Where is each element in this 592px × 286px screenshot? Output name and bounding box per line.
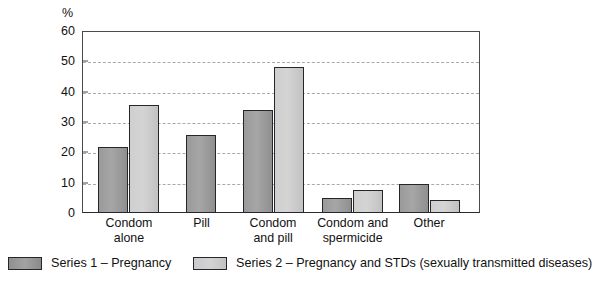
bar-series-1[interactable] (186, 135, 216, 213)
legend-swatch-series-2-icon (193, 257, 227, 270)
legend-item-series-2[interactable]: Series 2 – Pregnancy and STDs (sexually … (193, 256, 592, 270)
bar-series-1[interactable] (98, 147, 128, 213)
bar-group (171, 31, 232, 213)
legend-label-series-2: Series 2 – Pregnancy and STDs (sexually … (236, 256, 592, 270)
bar-series-2[interactable] (430, 200, 460, 213)
y-tick-label-60: 60 (8, 24, 82, 38)
legend-swatch-series-1-icon (8, 257, 42, 270)
x-axis-label-5: Other (369, 216, 489, 231)
y-tick-label-40: 40 (8, 85, 82, 99)
chart-legend: Series 1 – Pregnancy Series 2 – Pregnanc… (0, 256, 545, 286)
y-tick-label-30: 30 (8, 115, 82, 129)
bar-series-1[interactable] (322, 198, 352, 213)
y-tick-label-20: 20 (8, 145, 82, 159)
bar-group (98, 31, 159, 213)
bar-series-1[interactable] (399, 184, 429, 213)
bar-series-2[interactable] (274, 67, 304, 214)
bar-series-1[interactable] (243, 110, 273, 213)
bar-series-2[interactable] (129, 105, 159, 213)
bar-group (243, 31, 304, 213)
y-tick-label-10: 10 (8, 176, 82, 190)
y-tick-label-50: 50 (8, 54, 82, 68)
bar-series-2[interactable] (353, 190, 383, 213)
x-axis-category-labels: Condom alonePillCondom and pillCondom an… (82, 216, 480, 256)
bar-group (322, 31, 383, 213)
bar-series-layer (82, 31, 480, 213)
legend-label-series-1: Series 1 – Pregnancy (51, 256, 171, 270)
legend-item-series-1[interactable]: Series 1 – Pregnancy (8, 256, 171, 270)
bar-group (399, 31, 460, 213)
